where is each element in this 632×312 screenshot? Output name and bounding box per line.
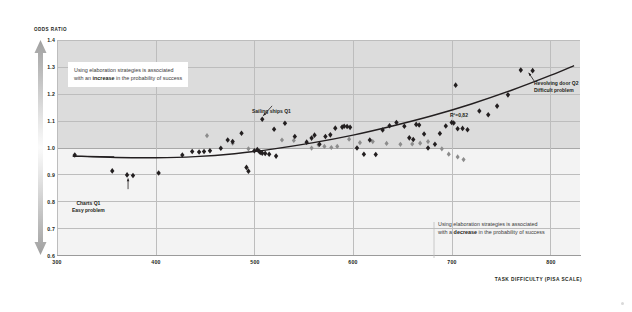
data-point-grey	[398, 142, 402, 147]
chart-figure: ODDS RATIO TASK DIFFICULTY (PISA SCALE) …	[0, 0, 632, 312]
callout-increase: Using elaboration strategies is associat…	[68, 62, 188, 87]
data-point-grey	[280, 137, 284, 142]
data-point-grey	[322, 144, 326, 149]
r-squared-label: R²=0,82	[450, 112, 468, 118]
data-point-dark	[411, 137, 415, 143]
data-point-grey	[440, 146, 444, 151]
data-point-grey	[246, 146, 250, 151]
callout-increase-post: in the probability of success	[114, 75, 182, 81]
data-point-dark	[460, 126, 464, 132]
data-point-grey	[426, 139, 430, 144]
callout-increase-line1: Using elaboration strategies is associat…	[74, 66, 182, 74]
corner-mark	[621, 302, 624, 305]
data-point-dark	[73, 152, 77, 158]
data-point-dark	[239, 130, 243, 136]
data-point-dark	[190, 149, 194, 155]
data-point-dark	[323, 134, 327, 140]
callout-increase-line2: with an increase in the probability of s…	[74, 74, 182, 82]
data-point-dark	[422, 131, 426, 137]
data-point-dark	[348, 125, 352, 131]
data-point-dark	[477, 108, 481, 114]
callout-increase-bold: increase	[93, 75, 115, 81]
data-point-dark	[312, 132, 316, 138]
data-point-dark	[455, 126, 459, 132]
data-point-dark	[309, 135, 313, 141]
data-point-dark	[453, 82, 457, 88]
data-point-dark	[131, 173, 135, 179]
data-point-dark	[355, 145, 359, 151]
data-point-dark	[362, 151, 366, 157]
data-point-dark	[260, 116, 264, 122]
data-point-dark	[426, 145, 430, 151]
annotation-charts-q1: Charts Q1 Easy problem	[72, 200, 105, 215]
data-point-grey	[335, 144, 339, 149]
data-point-dark	[402, 123, 406, 129]
data-point-dark	[444, 123, 448, 129]
data-point-grey	[418, 141, 422, 146]
data-point-grey	[462, 157, 466, 162]
data-point-grey	[205, 133, 209, 138]
data-point-dark	[438, 131, 442, 137]
callout-decrease: Using elaboration strategies is associat…	[438, 220, 545, 237]
data-point-grey	[347, 137, 351, 142]
data-point-dark	[283, 121, 287, 127]
data-point-dark	[486, 112, 490, 118]
callout-decrease-pre: with a	[438, 229, 454, 235]
annotation-revolving-line2: Difficult problem	[534, 87, 578, 94]
data-point-dark	[530, 68, 534, 74]
data-point-dark	[110, 168, 114, 174]
data-point-grey	[447, 152, 451, 157]
callout-decrease-bold: decrease	[454, 229, 477, 235]
data-point-dark	[263, 151, 267, 157]
data-point-dark	[465, 127, 469, 133]
data-point-dark	[197, 149, 201, 155]
data-point-grey	[456, 154, 460, 159]
data-point-dark	[374, 152, 378, 158]
data-point-dark	[208, 148, 212, 154]
data-point-dark	[417, 122, 421, 128]
data-point-dark	[156, 170, 160, 176]
data-point-dark	[272, 126, 276, 132]
data-point-dark	[219, 146, 223, 152]
callout-decrease-line1: Using elaboration strategies is associat…	[438, 220, 545, 228]
annotation-sailing-ships: Sailing ships Q1	[252, 108, 291, 115]
data-point-dark	[267, 151, 271, 157]
callout-decrease-line2: with a decrease in the probability of su…	[438, 228, 545, 236]
data-point-grey	[410, 141, 414, 146]
trend-line-start	[73, 156, 114, 157]
data-point-dark	[274, 153, 278, 159]
data-point-grey	[329, 145, 333, 150]
data-point-dark	[333, 125, 337, 131]
data-point-dark	[519, 67, 523, 73]
data-layer	[0, 0, 632, 312]
data-point-dark	[495, 103, 499, 109]
data-point-dark	[125, 172, 129, 178]
leader-charts-q1-head	[127, 178, 130, 181]
data-point-dark	[226, 137, 230, 143]
data-point-dark	[202, 149, 206, 155]
data-point-dark	[293, 134, 297, 140]
annotation-charts-line2: Easy problem	[72, 207, 105, 214]
data-point-dark	[407, 135, 411, 141]
callout-decrease-post: in the probability of success	[477, 229, 545, 235]
annotation-revolving-door: Revolving door Q2 Difficult problem	[534, 80, 578, 95]
data-point-grey	[385, 141, 389, 146]
annotation-charts-line1: Charts Q1	[72, 200, 105, 207]
annotation-revolving-line1: Revolving door Q2	[534, 80, 578, 87]
data-point-grey	[310, 145, 314, 150]
data-point-dark	[328, 132, 332, 138]
data-point-grey	[358, 140, 362, 145]
callout-increase-pre: with an	[74, 75, 93, 81]
data-point-dark	[433, 141, 437, 147]
